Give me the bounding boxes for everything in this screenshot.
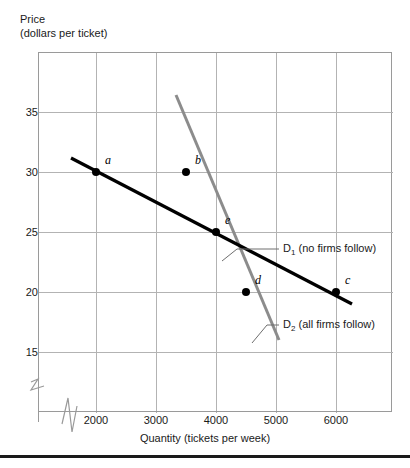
d2-leader-line <box>252 325 279 343</box>
y-axis-title-line2: (dollars per ticket) <box>20 26 107 40</box>
plot-area: a b e d c D1 (no firms follow) D2 (all f… <box>38 52 392 412</box>
x-tick-label-3000: 3000 <box>131 414 181 426</box>
d2-curve-label: D2 (all firms follow) <box>283 318 375 333</box>
y-tick-label-20: 20 <box>10 286 38 298</box>
d1-leader-line <box>222 249 279 261</box>
y-tick-label-25: 25 <box>10 226 38 238</box>
d2-description: (all firms follow) <box>295 318 374 330</box>
y-tick-label-35: 35 <box>10 106 38 118</box>
y-tick-label-30: 30 <box>10 166 38 178</box>
d2-symbol: D <box>283 318 291 330</box>
annotation-leaders-svg <box>39 53 393 413</box>
x-axis-title: Quantity (tickets per week) <box>0 432 410 444</box>
d1-curve-label: D1 (no firms follow) <box>283 242 376 257</box>
figure-container: Price (dollars per ticket) 35 30 25 20 1… <box>0 0 410 468</box>
d1-description: (no firms follow) <box>295 242 376 254</box>
y-axis-title-line1: Price <box>20 12 107 26</box>
y-tick-label-15: 15 <box>10 346 38 358</box>
x-tick-label-5000: 5000 <box>251 414 301 426</box>
d1-symbol: D <box>283 242 291 254</box>
y-axis-title: Price (dollars per ticket) <box>20 12 107 40</box>
x-tick-label-4000: 4000 <box>191 414 241 426</box>
x-tick-label-6000: 6000 <box>311 414 361 426</box>
figure-bottom-rule <box>0 455 410 458</box>
x-tick-label-2000: 2000 <box>71 414 121 426</box>
